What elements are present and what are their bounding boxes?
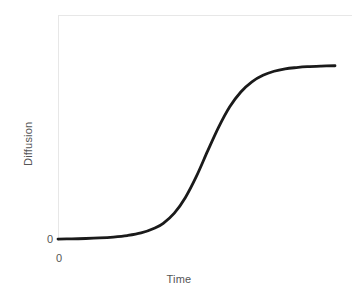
diffusion-curve-line [58, 66, 335, 239]
x-axis-title: Time [0, 273, 358, 285]
x-axis-tick-label-0: 0 [53, 252, 65, 264]
y-axis-title: Diffusion [22, 122, 34, 166]
diffusion-time-chart: Diffusion Time 0 0 [0, 0, 358, 297]
y-axis-tick-label-0: 0 [41, 233, 53, 245]
